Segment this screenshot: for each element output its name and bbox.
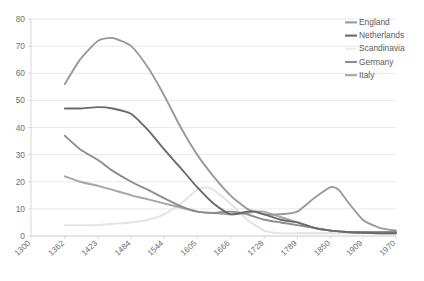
legend-label-italy: Italy: [359, 70, 375, 80]
y-tick-label: 50: [16, 95, 26, 105]
y-tick-label: 80: [16, 14, 26, 24]
y-tick-label: 70: [16, 41, 26, 51]
y-tick-label: 30: [16, 150, 26, 160]
chart-canvas: 01020304050607080 1300136214231484154416…: [0, 0, 424, 281]
y-tick-label: 40: [16, 123, 26, 133]
legend-label-germany: Germany: [359, 57, 394, 67]
y-tick-label: 10: [16, 204, 26, 214]
chart-background: [0, 0, 424, 281]
line-chart-figure: 01020304050607080 1300136214231484154416…: [0, 0, 424, 281]
legend-label-scandinavia: Scandinavia: [359, 43, 405, 53]
y-tick-label: 60: [16, 68, 26, 78]
legend-label-england: England: [359, 17, 390, 27]
y-tick-label: 20: [16, 177, 26, 187]
legend-label-netherlands: Netherlands: [359, 30, 404, 40]
